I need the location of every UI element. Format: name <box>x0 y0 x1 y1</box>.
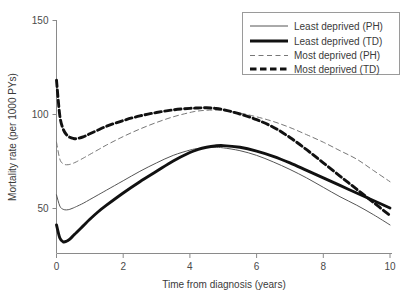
chart-canvas: 50100150 0246810 Time from diagnosis (ye… <box>0 0 410 294</box>
data-series-group <box>57 80 391 242</box>
mortality-rate-chart: 50100150 0246810 Time from diagnosis (ye… <box>0 0 410 294</box>
x-tick-label: 6 <box>254 261 260 272</box>
x-tick-label: 10 <box>384 261 396 272</box>
x-tick-label: 8 <box>321 261 327 272</box>
legend-label-2: Least deprived (TD) <box>294 36 382 47</box>
legend-label-3: Most deprived (PH) <box>294 50 380 61</box>
y-axis-ticks: 50100150 <box>32 15 57 214</box>
x-tick-label: 4 <box>187 261 193 272</box>
x-tick-label: 0 <box>54 261 60 272</box>
x-axis-ticks: 0246810 <box>54 254 396 273</box>
y-tick-label: 50 <box>37 203 49 214</box>
y-axis-title: Mortality rate (per 1000 PYs) <box>7 73 18 201</box>
legend-label-4: Most deprived (TD) <box>294 64 380 75</box>
chart-legend: Least deprived (PH)Least deprived (TD)Mo… <box>243 13 400 75</box>
y-tick-label: 100 <box>32 109 49 120</box>
x-axis-title: Time from diagnosis (years) <box>162 279 286 290</box>
x-tick-label: 2 <box>120 261 126 272</box>
legend-label-1: Least deprived (PH) <box>294 21 383 32</box>
series-line-least-deprived-td <box>57 146 391 243</box>
y-tick-label: 150 <box>32 15 49 26</box>
